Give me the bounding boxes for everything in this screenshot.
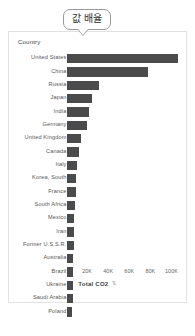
bar-track [67,241,183,250]
bar-track [67,81,183,90]
bar-fill[interactable] [67,161,77,170]
bar-category-label: Italy [55,161,66,167]
bar-fill[interactable] [67,54,178,63]
bar-fill[interactable] [67,254,73,263]
bar-fill[interactable] [67,107,89,116]
bar-track [67,134,183,143]
bar-track [67,121,183,130]
bar-track [67,254,183,263]
bar-fill[interactable] [67,227,74,236]
bar-track [67,94,183,103]
x-axis-tick-label: 100K [165,268,178,274]
bar-row[interactable]: Germany [9,119,188,132]
bar-row[interactable]: Australia [9,252,188,265]
bar-row[interactable]: Poland [9,306,188,319]
bar-row[interactable]: Iran [9,225,188,238]
bar-row[interactable]: Former U.S.S.R. [9,239,188,252]
bar-category-label: South Africa [35,201,67,207]
bar-category-label: Australia [43,254,66,260]
x-axis-tick-label: 20K [82,268,92,274]
bar-track [67,147,183,156]
bar-category-label: Japan [51,94,67,100]
bar-fill[interactable] [67,294,73,303]
x-axis-tick-label: 60K [124,268,134,274]
bar-track [67,201,183,210]
bar-category-label: China [51,68,66,74]
x-axis-tick-label: 80K [145,268,155,274]
bar-row[interactable]: Saudi Arabia [9,292,188,305]
country-column-header: Country [18,38,40,45]
bar-category-label: Russia [49,81,67,87]
bar-track [67,214,183,223]
bar-track [67,227,183,236]
bar-track [67,187,183,196]
bar-track [67,54,183,63]
bar-track [67,307,183,316]
bar-row[interactable]: China [9,65,188,78]
bar-category-label: Former U.S.S.R. [23,241,67,247]
bar-row[interactable]: Russia [9,79,188,92]
bar-category-label: United States [31,54,67,60]
bar-fill[interactable] [67,147,79,156]
bar-category-label: United Kingdom [25,134,67,140]
bar-fill[interactable] [67,94,92,103]
bar-category-label: India [54,108,67,114]
x-axis-title[interactable]: Total CO2⇅ [0,280,195,287]
bar-track [67,161,183,170]
bar-fill[interactable] [67,307,72,316]
bar-track [67,107,183,116]
bar-row[interactable]: United States [9,52,188,65]
bar-row[interactable]: France [9,185,188,198]
bar-category-label: Iran [56,228,66,234]
bar-fill[interactable] [67,174,76,183]
bar-category-label: Poland [48,308,66,314]
bar-fill[interactable] [67,241,74,250]
sort-icon[interactable]: ⇅ [112,280,116,286]
value-scale-tooltip: 값 배율 [63,9,111,30]
bar-fill[interactable] [67,67,148,76]
bar-fill[interactable] [67,134,81,143]
bar-category-label: Mexico [48,214,67,220]
bar-category-label: France [48,188,66,194]
bar-fill[interactable] [67,81,99,90]
bar-track [67,174,183,183]
bar-fill[interactable] [67,201,75,210]
bar-row[interactable]: South Africa [9,199,188,212]
bar-fill[interactable] [67,121,87,130]
bar-row[interactable]: Korea, South [9,172,188,185]
bar-chart-plot-area: United StatesChinaRussiaJapanIndiaGerman… [9,52,188,304]
x-axis-ticks: 20K40K60K80K100K [0,268,195,280]
bar-row[interactable]: Italy [9,159,188,172]
bar-row[interactable]: Japan [9,92,188,105]
bar-category-label: Canada [46,148,67,154]
x-axis-tick-label: 40K [103,268,113,274]
bar-row[interactable]: Canada [9,145,188,158]
chart-card: Country United StatesChinaRussiaJapanInd… [8,31,187,303]
tooltip-label: 값 배율 [72,13,102,24]
bar-row[interactable]: United Kingdom [9,132,188,145]
bar-track [67,294,183,303]
bar-category-label: Korea, South [32,174,66,180]
bar-category-label: Germany [42,121,66,127]
tooltip-tail-inner [78,29,88,35]
bar-row[interactable]: India [9,105,188,118]
bar-fill[interactable] [67,214,74,223]
bar-fill[interactable] [67,187,76,196]
bar-track [67,67,183,76]
bar-category-label: Saudi Arabia [33,294,67,300]
x-axis-title-label: Total CO2 [78,280,108,287]
bar-row[interactable]: Mexico [9,212,188,225]
